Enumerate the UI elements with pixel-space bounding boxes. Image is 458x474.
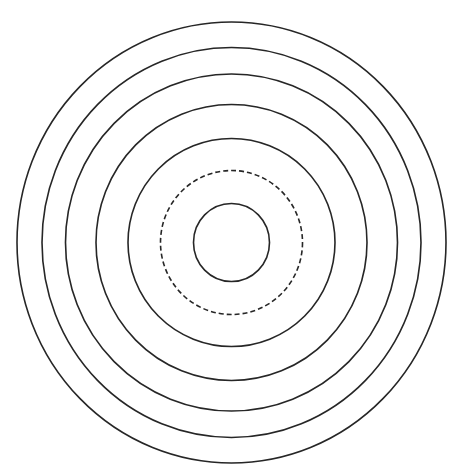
ring-3 [128,139,335,347]
ring-6 [42,48,421,438]
ring-1 [194,204,270,282]
concentric-rings-diagram [0,0,458,474]
ring-4 [96,105,367,381]
dashed-ring-2 [161,171,303,315]
rings-group [17,22,446,463]
ring-7 [17,22,446,463]
ring-5 [66,74,398,411]
